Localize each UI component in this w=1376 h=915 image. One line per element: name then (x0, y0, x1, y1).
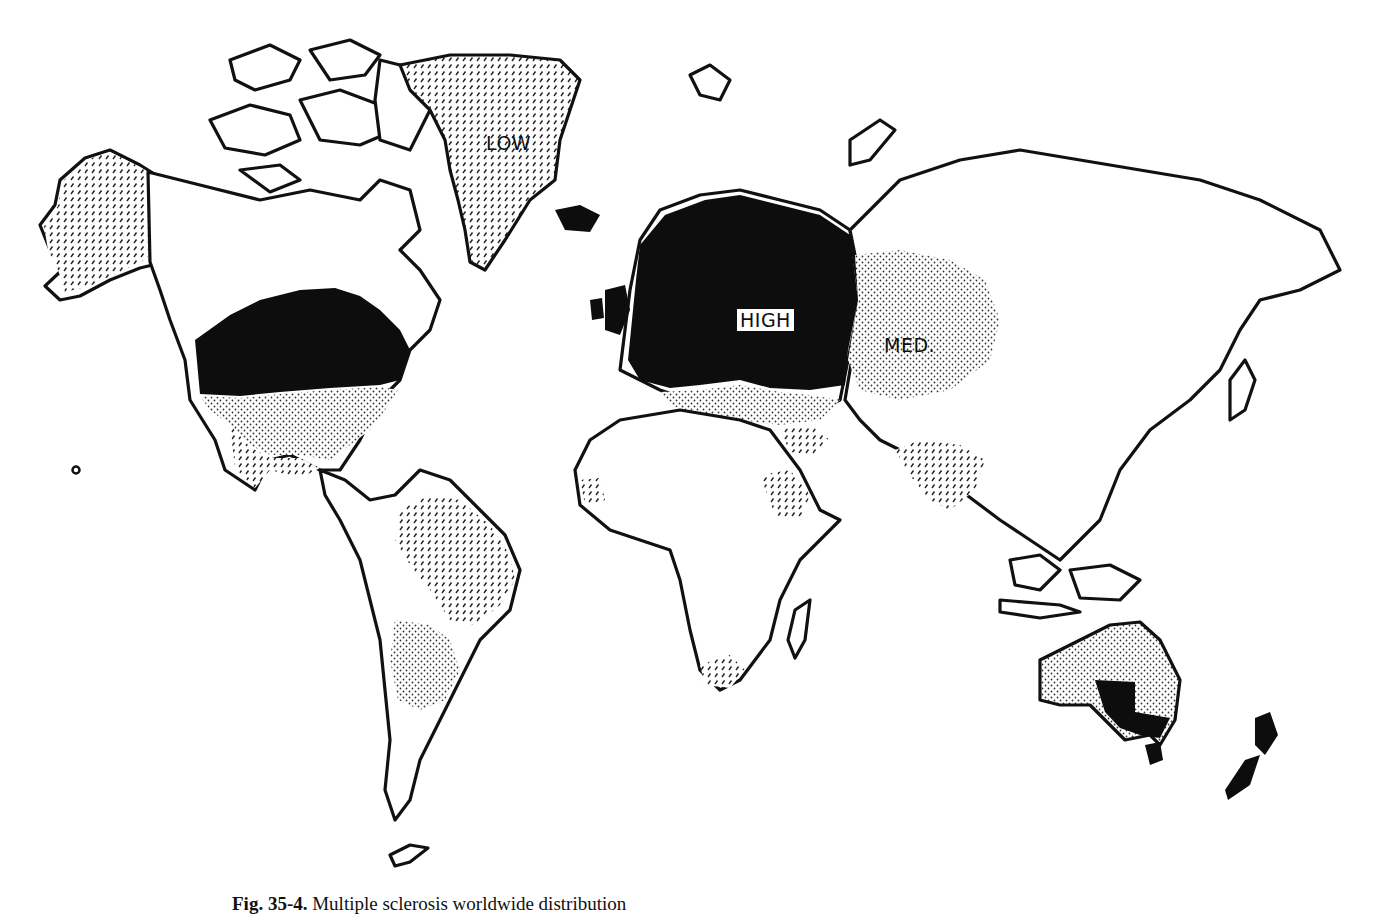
south-georgia (390, 845, 428, 866)
label-high-risk: HIGH (737, 309, 794, 331)
new-zealand (1225, 712, 1278, 800)
svalbard (690, 65, 730, 100)
canadian-arctic-islands (210, 40, 430, 192)
novaya-zemlya (850, 120, 895, 165)
label-med-risk: MED. (884, 334, 935, 356)
australia (1040, 622, 1180, 765)
caption-label: Fig. 35-4. (232, 893, 307, 914)
pacific-island (73, 467, 80, 474)
label-low-risk: LOW (486, 132, 531, 154)
asia (780, 150, 1340, 560)
south-america (320, 470, 520, 820)
iceland (555, 205, 600, 232)
north-america (148, 172, 440, 490)
greenland (400, 55, 580, 270)
southeast-asia-islands (1000, 555, 1140, 618)
madagascar (788, 600, 810, 658)
japan (1230, 360, 1255, 420)
europe (590, 190, 860, 425)
caption-text: Multiple sclerosis worldwide distributio… (312, 893, 626, 914)
figure-caption: Fig. 35-4. Multiple sclerosis worldwide … (232, 893, 626, 915)
